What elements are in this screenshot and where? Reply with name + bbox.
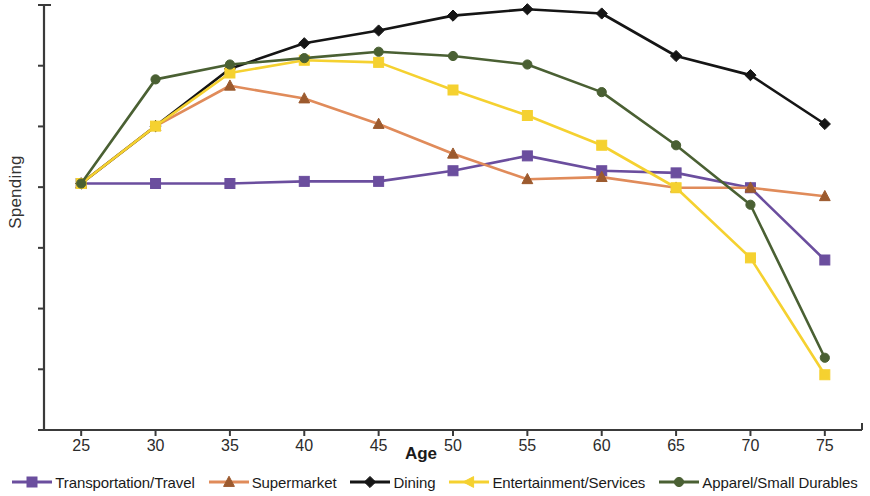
legend-marker-icon [12, 475, 52, 489]
line-chart: Spending 2530354045505560657075 Age Tran… [0, 0, 870, 496]
legend-marker-icon [209, 475, 249, 489]
x-tick-label: 60 [580, 437, 624, 455]
x-tick-label: 25 [59, 437, 103, 455]
legend-item[interactable]: Apparel/Small Durables [659, 474, 857, 491]
series-entertainment-services [76, 55, 830, 380]
legend-item-label: Transportation/Travel [55, 474, 194, 491]
x-tick-label: 30 [134, 437, 178, 455]
legend-item[interactable]: Supermarket [209, 474, 337, 491]
plot-area [0, 0, 870, 440]
legend-item[interactable]: Transportation/Travel [12, 474, 194, 491]
legend-item-label: Apparel/Small Durables [702, 474, 857, 491]
series-dining [76, 4, 831, 189]
x-axis-title: Age [392, 444, 450, 464]
legend-item-label: Supermarket [252, 474, 337, 491]
series-lines [76, 4, 831, 380]
legend-marker-icon [350, 475, 390, 489]
chart-legend: Transportation/TravelSupermarketDiningEn… [0, 470, 870, 494]
axis-lines [38, 5, 862, 436]
y-axis-title: Spending [6, 132, 26, 252]
legend-item[interactable]: Entertainment/Services [449, 474, 645, 491]
x-tick-label: 65 [654, 437, 698, 455]
x-tick-label: 75 [803, 437, 847, 455]
legend-item-label: Entertainment/Services [492, 474, 645, 491]
x-tick-label: 70 [728, 437, 772, 455]
legend-item-label: Dining [393, 474, 435, 491]
x-tick-label: 40 [282, 437, 326, 455]
legend-item[interactable]: Dining [350, 474, 435, 491]
x-tick-label: 55 [505, 437, 549, 455]
legend-marker-icon [449, 475, 489, 489]
x-tick-label: 35 [208, 437, 252, 455]
legend-marker-icon [659, 475, 699, 489]
series-transportation-travel [76, 151, 830, 265]
